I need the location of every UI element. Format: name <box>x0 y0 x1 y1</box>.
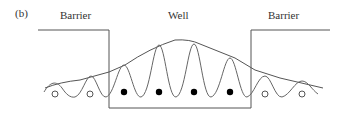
filled-dot-particle <box>121 89 127 95</box>
open-circle-particle <box>87 91 93 97</box>
potential-profile <box>38 30 330 108</box>
quantum-well-diagram: (b) Barrier Well Barrier <box>0 0 345 114</box>
diagram-canvas <box>0 0 345 114</box>
open-circle-particle <box>52 91 58 97</box>
open-circle-particle <box>262 91 268 97</box>
filled-dot-particle <box>227 89 233 95</box>
wavefunction-curve <box>44 44 318 97</box>
filled-dot-particle <box>156 89 162 95</box>
filled-dot-particle <box>191 89 197 95</box>
open-circle-particle <box>299 91 305 97</box>
